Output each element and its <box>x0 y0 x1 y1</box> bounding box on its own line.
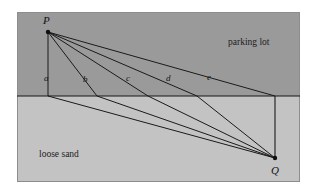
region-loose-sand <box>17 96 300 182</box>
region-parking-lot <box>17 12 300 96</box>
path-label-c: c <box>126 73 130 83</box>
region-label-parking-lot: parking lot <box>228 37 270 47</box>
path-label-d: d <box>166 73 171 83</box>
point-p-marker <box>46 30 50 34</box>
point-label-p: P <box>42 14 50 26</box>
point-q-marker <box>273 156 277 160</box>
path-label-a: a <box>44 73 49 83</box>
path-label-b: b <box>83 74 88 84</box>
region-label-loose-sand: loose sand <box>39 149 79 159</box>
path-label-e: e <box>207 72 211 82</box>
point-label-q: Q <box>271 164 279 176</box>
diagram-canvas: a b c d e P Q parking lot loose sand <box>0 0 318 192</box>
figure-container: a b c d e P Q parking lot loose sand <box>0 0 318 192</box>
